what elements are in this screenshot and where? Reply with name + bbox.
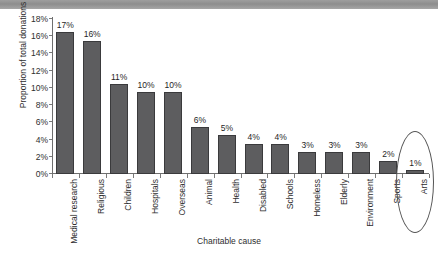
bar-value-label: 16%: [79, 29, 106, 39]
bar-value-label: 2%: [375, 149, 402, 159]
scan-artifact-band: [0, 0, 438, 9]
bar: [352, 152, 370, 174]
x-axis-category-label: Children: [123, 179, 133, 211]
bar: [83, 41, 101, 174]
bar-slot: 4%: [241, 19, 268, 174]
bar: [164, 92, 182, 174]
x-axis-category-label: Arts: [419, 179, 429, 194]
bar-value-label: 3%: [321, 140, 348, 150]
bar: [406, 170, 424, 174]
x-axis-category-label: Elderly: [339, 179, 349, 205]
bar-slot: 16%: [79, 19, 106, 174]
bar-slot: 6%: [187, 19, 214, 174]
bar: [56, 32, 74, 174]
y-axis-tick-mark: [49, 104, 52, 105]
y-axis-tick-mark: [49, 18, 52, 19]
y-axis-tick-label: 6%: [36, 118, 48, 126]
bar-slot: 17%: [52, 19, 79, 174]
y-axis-tick-label: 2%: [36, 153, 48, 161]
y-axis-tick-mark: [49, 87, 52, 88]
bar-value-label: 11%: [106, 72, 133, 82]
bar-value-label: 6%: [187, 115, 214, 125]
bar-slot: 2%: [375, 19, 402, 174]
bar-value-label: 5%: [214, 123, 241, 133]
bar-chart: Proportion of total donations 0%2%4%6%8%…: [0, 0, 438, 260]
bar-slot: 4%: [267, 19, 294, 174]
x-axis-category-label: Sports: [392, 179, 402, 204]
y-axis-tick-mark: [49, 156, 52, 157]
bar-slot: 3%: [321, 19, 348, 174]
y-axis-tick-label: 4%: [36, 136, 48, 144]
y-axis-tick-label: 16%: [31, 32, 48, 40]
bar-series: 17%16%11%10%10%6%5%4%4%3%3%3%2%1%: [52, 19, 429, 174]
bar: [325, 152, 343, 174]
bar-value-label: 3%: [294, 140, 321, 150]
bar-value-label: 10%: [160, 80, 187, 90]
x-axis-category-label: Health: [231, 179, 241, 204]
bar: [298, 152, 316, 174]
y-axis-tick-mark: [49, 70, 52, 71]
bar-slot: 10%: [160, 19, 187, 174]
y-axis-tick-labels: 0%2%4%6%8%10%12%14%16%18%: [20, 0, 48, 260]
x-axis-category-label: Schools: [285, 179, 295, 209]
y-axis-tick-label: 14%: [31, 49, 48, 57]
bar-slot: 11%: [106, 19, 133, 174]
bar: [137, 92, 155, 174]
bar: [110, 84, 128, 174]
bar: [379, 161, 397, 174]
x-axis-category-label: Religious: [96, 179, 106, 214]
y-axis-tick-label: 18%: [31, 15, 48, 23]
x-axis-category-label: Hospitals: [150, 179, 160, 214]
bar-slot: 1%: [402, 19, 429, 174]
bar: [245, 144, 263, 174]
bar-value-label: 1%: [402, 158, 429, 168]
x-axis-title-text: Charitable cause: [197, 236, 261, 246]
bar: [218, 135, 236, 174]
y-axis-tick-mark: [49, 35, 52, 36]
y-axis-tick-label: 12%: [31, 67, 48, 75]
bar-value-label: 17%: [52, 20, 79, 30]
x-axis-category-label: Medical research: [69, 179, 79, 244]
y-axis-tick-mark: [49, 52, 52, 53]
y-axis-tick-label: 10%: [31, 84, 48, 92]
x-axis-category-label: Environment: [365, 179, 375, 227]
bar: [191, 127, 209, 174]
bar-value-label: 4%: [267, 132, 294, 142]
bar: [271, 144, 289, 174]
plot-area: 17%16%11%10%10%6%5%4%4%3%3%3%2%1%: [52, 19, 429, 174]
x-axis-category-label: Animal: [204, 179, 214, 205]
bar-value-label: 10%: [133, 80, 160, 90]
y-axis-tick-label: 0%: [36, 170, 48, 178]
bar-slot: 3%: [348, 19, 375, 174]
x-axis-tick-mark: [429, 174, 430, 178]
y-axis-tick-mark: [49, 139, 52, 140]
x-axis-category-label: Overseas: [177, 179, 187, 215]
y-axis-tick-label: 8%: [36, 101, 48, 109]
bar-slot: 3%: [294, 19, 321, 174]
x-axis-category-label: Homeless: [312, 179, 322, 217]
bar-value-label: 3%: [348, 140, 375, 150]
bar-slot: 10%: [133, 19, 160, 174]
bar-value-label: 4%: [241, 132, 268, 142]
y-axis-tick-mark: [49, 121, 52, 122]
bar-slot: 5%: [214, 19, 241, 174]
x-axis-category-label: Disabled: [258, 179, 268, 212]
x-axis-title: Charitable cause: [0, 236, 438, 246]
